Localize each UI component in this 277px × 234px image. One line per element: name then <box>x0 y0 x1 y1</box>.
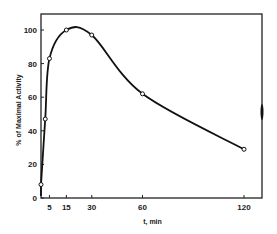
x-tick-label: 60 <box>138 203 147 212</box>
data-point <box>39 183 43 187</box>
edge-mark <box>261 104 264 120</box>
x-tick-label: 15 <box>62 203 71 212</box>
plot-frame <box>41 14 262 198</box>
y-tick-label: 0 <box>33 194 38 203</box>
x-tick-label: 30 <box>87 203 96 212</box>
data-point <box>141 92 145 96</box>
x-tick-label: 5 <box>47 203 52 212</box>
y-tick-label: 80 <box>28 60 37 69</box>
data-point <box>64 28 68 32</box>
y-tick-label: 40 <box>28 127 37 136</box>
data-point <box>47 57 51 61</box>
data-point <box>43 117 47 121</box>
y-tick-label: 20 <box>28 160 37 169</box>
data-point <box>242 147 246 151</box>
y-tick-label: 60 <box>28 93 37 102</box>
x-tick-label: 120 <box>237 203 251 212</box>
x-axis-label: t, min <box>143 218 162 226</box>
data-curve <box>41 27 244 196</box>
data-point <box>90 33 94 37</box>
activity-chart: 0204060801005153060120t, min% of Maximal… <box>0 0 277 234</box>
y-tick-label: 100 <box>24 26 38 35</box>
y-axis-label: % of Maximal Activity <box>15 74 23 145</box>
